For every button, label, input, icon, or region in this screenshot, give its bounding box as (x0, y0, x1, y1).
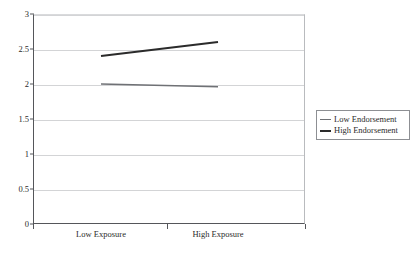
y-axis-tick-label: 1.5 (18, 115, 29, 124)
y-axis-tick-label: 0.5 (18, 185, 29, 194)
gridline (34, 15, 304, 16)
x-axis-tick-mark (33, 224, 34, 229)
y-axis-labels: 00.511.522.53 (0, 0, 29, 253)
gridline (34, 190, 304, 191)
gridline (34, 120, 304, 121)
x-axis-tick-label: Low Exposure (76, 230, 126, 239)
x-axis-tick-mark (305, 224, 306, 229)
gridline (34, 50, 304, 51)
gridline (34, 85, 304, 86)
chart-legend: Low EndorsementHigh Endorsement (316, 110, 410, 140)
y-axis-tick-mark (30, 119, 34, 120)
legend-swatch (320, 130, 331, 132)
y-axis-tick-mark (30, 49, 34, 50)
x-axis-tick-label: High Exposure (192, 230, 243, 239)
plot-area (33, 14, 305, 224)
legend-swatch (320, 119, 331, 120)
y-axis-tick-label: 2.5 (18, 45, 29, 54)
y-axis-tick-mark (30, 189, 34, 190)
y-axis-tick-mark (30, 154, 34, 155)
legend-label: Low Endorsement (334, 114, 397, 125)
legend-item: High Endorsement (320, 125, 405, 136)
x-axis-tick-mark (167, 224, 168, 229)
y-axis-tick-mark (30, 84, 34, 85)
y-axis-ticks (29, 0, 34, 253)
y-axis-tick-mark (30, 14, 34, 15)
legend-item: Low Endorsement (320, 114, 405, 125)
gridline (34, 155, 304, 156)
legend-label: High Endorsement (334, 125, 398, 136)
